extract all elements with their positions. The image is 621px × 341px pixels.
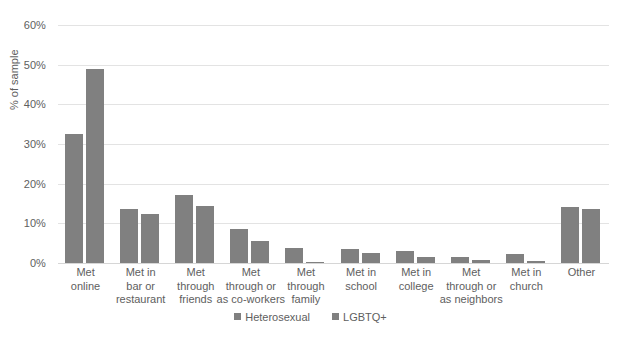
- bar-group: [58, 25, 113, 263]
- bar[interactable]: [230, 229, 248, 263]
- bar-group: [499, 25, 554, 263]
- bar[interactable]: [472, 260, 490, 263]
- legend-swatch-icon: [332, 313, 339, 320]
- bar-group: [278, 25, 333, 263]
- bar[interactable]: [582, 209, 600, 263]
- bar-chart: % of sample 60%50%40%30%20%10%0% Metonli…: [0, 0, 621, 341]
- bar[interactable]: [285, 248, 303, 263]
- bar[interactable]: [86, 69, 104, 263]
- bar-group: [334, 25, 389, 263]
- bar-group: [444, 25, 499, 263]
- y-tick-label: 60%: [24, 19, 46, 31]
- y-tick-label: 10%: [24, 217, 46, 229]
- bar-group: [168, 25, 223, 263]
- gridline-0: [58, 263, 609, 264]
- bar[interactable]: [451, 257, 469, 263]
- legend-swatch-icon: [234, 313, 241, 320]
- bar[interactable]: [120, 209, 138, 263]
- chart-legend: HeterosexualLGBTQ+: [0, 311, 621, 323]
- bar[interactable]: [65, 134, 83, 263]
- bar-group: [554, 25, 609, 263]
- legend-label: LGBTQ+: [343, 311, 387, 323]
- y-tick-label: 50%: [24, 59, 46, 71]
- legend-label: Heterosexual: [245, 311, 310, 323]
- bar-group: [113, 25, 168, 263]
- y-tick-label: 20%: [24, 178, 46, 190]
- bar[interactable]: [396, 251, 414, 263]
- legend-item[interactable]: Heterosexual: [234, 311, 310, 323]
- bar[interactable]: [251, 241, 269, 263]
- legend-item[interactable]: LGBTQ+: [332, 311, 387, 323]
- bar[interactable]: [362, 253, 380, 263]
- bar-groups: [58, 25, 609, 263]
- bar[interactable]: [417, 257, 435, 263]
- bar-group: [389, 25, 444, 263]
- bar[interactable]: [527, 261, 545, 263]
- y-axis-tick-labels: 60%50%40%30%20%10%0%: [0, 25, 52, 263]
- x-category-label: Other: [546, 266, 617, 280]
- y-tick-label: 40%: [24, 98, 46, 110]
- y-tick-label: 30%: [24, 138, 46, 150]
- bar[interactable]: [196, 206, 214, 263]
- bar[interactable]: [306, 262, 324, 263]
- bar[interactable]: [561, 207, 579, 263]
- bar[interactable]: [506, 254, 524, 263]
- y-tick-label: 0%: [30, 257, 46, 269]
- x-axis-category-labels: MetonlineMet inbar orrestaurantMetthroug…: [58, 266, 609, 310]
- bar[interactable]: [175, 195, 193, 263]
- bar[interactable]: [141, 214, 159, 263]
- bar[interactable]: [341, 249, 359, 263]
- bar-group: [223, 25, 278, 263]
